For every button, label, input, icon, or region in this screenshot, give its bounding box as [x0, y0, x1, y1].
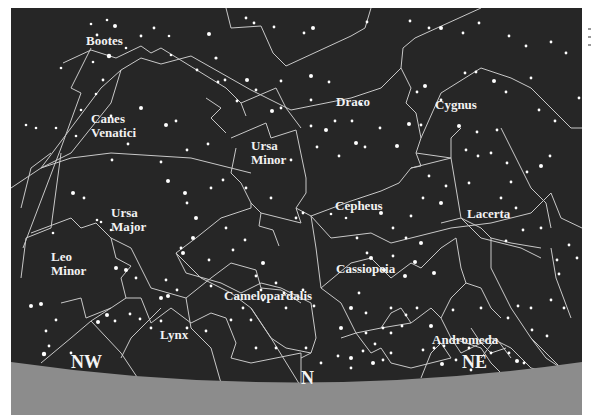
direction-n: N: [301, 369, 314, 387]
label-line: Major: [111, 220, 146, 234]
label-lynx: Lynx: [160, 328, 188, 342]
label-ursa-major: Ursa Major: [111, 206, 146, 234]
stars: [25, 17, 581, 372]
label-canes-venatici: Canes Venatici: [91, 112, 136, 140]
label-bootes: Bootes: [86, 34, 123, 48]
label-cassiopeia: Cassiopeia: [336, 262, 395, 276]
label-lacerta: Lacerta: [467, 207, 510, 221]
label-line: Venatici: [91, 126, 136, 140]
label-line: Leo: [51, 250, 86, 264]
label-camelopardalis: Camelopardalis: [224, 289, 312, 303]
label-cygnus: Cygnus: [435, 98, 477, 112]
label-line: Minor: [51, 264, 86, 278]
direction-ne: NE: [462, 353, 487, 371]
label-andromeda: Andromeda: [432, 333, 498, 347]
label-ursa-minor: Ursa Minor: [251, 139, 286, 167]
label-line: Ursa: [111, 206, 146, 220]
label-line: Ursa: [251, 139, 286, 153]
label-line: Canes: [91, 112, 136, 126]
label-draco: Draco: [336, 95, 370, 109]
label-line: Minor: [251, 153, 286, 167]
star-chart: Bootes Canes Venatici Draco Cygnus Ursa …: [11, 8, 582, 415]
label-cepheus: Cepheus: [335, 199, 383, 213]
cropped-margin-marks: [588, 28, 592, 52]
direction-nw: NW: [71, 353, 102, 371]
label-leo-minor: Leo Minor: [51, 250, 86, 278]
